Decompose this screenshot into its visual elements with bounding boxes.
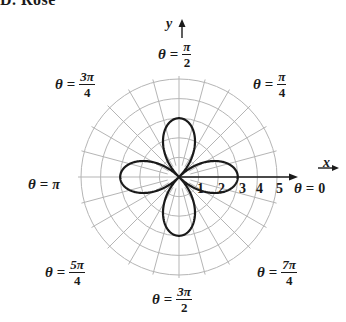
- tick-3: 3: [239, 181, 246, 197]
- angle-label-3pi-over-2: θ = 3π2: [152, 285, 192, 314]
- y-axis-label: y: [166, 16, 172, 32]
- tick-4: 4: [256, 181, 263, 197]
- angle-label-pi: θ = π: [28, 176, 60, 193]
- angle-label-5pi-over-4: θ = 5π4: [45, 258, 85, 287]
- angle-label-pi-over-2: θ = π2: [158, 40, 191, 69]
- angle-label-0: θ = 0: [294, 180, 325, 197]
- tick-2: 2: [218, 181, 225, 197]
- axes: [179, 19, 340, 181]
- tick-5: 5: [276, 181, 283, 197]
- angle-label-pi-over-4: θ = π4: [253, 70, 286, 99]
- tick-1: 1: [197, 181, 204, 197]
- angle-label-7pi-over-4: θ = 7π4: [257, 258, 297, 287]
- x-axis-label: x: [323, 155, 330, 171]
- angle-label-3pi-over-4: θ = 3π4: [55, 70, 95, 99]
